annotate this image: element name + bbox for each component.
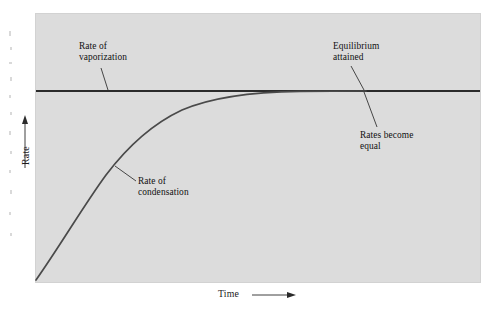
annotation-rates-become-equal: Rates become equal [360,130,414,153]
annotation-equilibrium-attained: Equilibrium attained [333,41,379,64]
annotation-rate-of-condensation: Rate of condensation [138,176,189,199]
plot-graphics [0,0,497,313]
y-axis-label: Rate [20,126,31,186]
x-axis-label: Time [218,288,239,299]
condensation-curve [36,91,366,280]
annotation-rate-of-vaporization: Rate of vaporization [79,41,127,64]
x-axis-arrow [252,292,296,298]
vaporization-leader-line [101,68,108,90]
condensation-leader-line [115,166,136,181]
rates-equal-leader-line [364,92,377,127]
equilibrium-leader-line [351,66,364,90]
figure-container: Rate of vaporization Equilibrium attaine… [0,0,497,313]
